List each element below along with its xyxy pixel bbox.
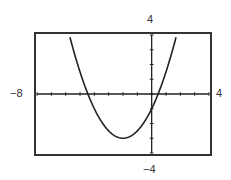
graph-plot xyxy=(0,0,231,180)
axes xyxy=(37,35,209,153)
parabola-curve xyxy=(70,37,176,138)
